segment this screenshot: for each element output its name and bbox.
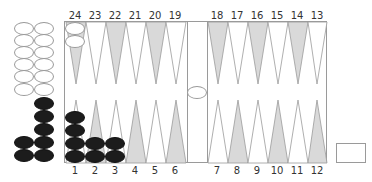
label-22: 22 (105, 10, 125, 21)
point-13 (308, 22, 327, 84)
white-checker (34, 83, 54, 96)
point-18 (208, 22, 228, 84)
black-checker (14, 136, 34, 149)
black-checker-point-1[interactable] (65, 111, 85, 124)
label-11: 11 (287, 165, 307, 176)
point-5 (146, 100, 166, 163)
white-checker (14, 70, 34, 83)
point-7 (208, 100, 228, 163)
label-7: 7 (207, 165, 227, 176)
label-13: 13 (307, 10, 327, 21)
label-17: 17 (227, 10, 247, 21)
black-checker (34, 136, 54, 149)
point-12 (308, 100, 327, 163)
label-10: 10 (267, 165, 287, 176)
label-1: 1 (65, 165, 85, 176)
label-14: 14 (287, 10, 307, 21)
label-9: 9 (247, 165, 267, 176)
white-checker (14, 83, 34, 96)
black-checker-point-1[interactable] (65, 124, 85, 137)
point-20 (146, 22, 166, 84)
black-checker (14, 149, 34, 162)
point-6 (166, 100, 186, 163)
label-8: 8 (227, 165, 247, 176)
label-23: 23 (85, 10, 105, 21)
black-checker-point-3[interactable] (105, 137, 125, 150)
label-3: 3 (105, 165, 125, 176)
label-18: 18 (207, 10, 227, 21)
black-checker (34, 149, 54, 162)
point-9 (248, 100, 268, 163)
black-checker-point-1[interactable] (65, 150, 85, 163)
label-20: 20 (145, 10, 165, 21)
label-12: 12 (307, 165, 327, 176)
point-10 (268, 100, 288, 163)
point-15 (268, 22, 288, 84)
white-checker (34, 70, 54, 83)
white-checker-point-24[interactable] (65, 35, 85, 48)
cube-box[interactable] (336, 143, 366, 163)
black-checker-point-2[interactable] (85, 137, 105, 150)
label-4: 4 (125, 165, 145, 176)
label-5: 5 (145, 165, 165, 176)
point-14 (288, 22, 308, 84)
label-24: 24 (65, 10, 85, 21)
point-8 (228, 100, 248, 163)
black-checker-point-2[interactable] (85, 150, 105, 163)
point-21 (126, 22, 146, 84)
label-19: 19 (165, 10, 185, 21)
black-checker (34, 123, 54, 136)
label-6: 6 (165, 165, 185, 176)
black-checker (34, 97, 54, 110)
white-checker-point-24[interactable] (65, 22, 85, 35)
black-checker (34, 110, 54, 123)
black-checker-point-1[interactable] (65, 137, 85, 150)
label-15: 15 (267, 10, 287, 21)
point-11 (288, 100, 308, 163)
white-checker-bar[interactable] (187, 86, 207, 99)
point-23 (86, 22, 106, 84)
point-19 (166, 22, 186, 84)
point-4 (126, 100, 146, 163)
point-17 (228, 22, 248, 84)
point-22 (106, 22, 126, 84)
label-16: 16 (247, 10, 267, 21)
label-2: 2 (85, 165, 105, 176)
point-16 (248, 22, 268, 84)
label-21: 21 (125, 10, 145, 21)
black-checker-point-3[interactable] (105, 150, 125, 163)
